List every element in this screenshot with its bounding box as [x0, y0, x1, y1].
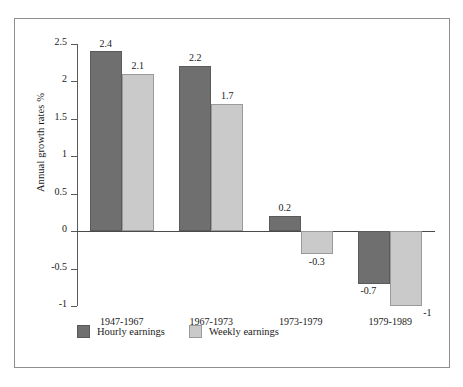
bar-hourly[interactable]	[358, 231, 390, 283]
chart-frame: Annual growth rates % 2.521.510.50-0.5-1…	[14, 18, 450, 368]
bar-value-label: 2.1	[118, 60, 158, 71]
top-text-sliver	[30, 0, 270, 4]
bar-group: -0.7-11979-1989	[346, 44, 436, 306]
figure-container: Annual growth rates % 2.521.510.50-0.5-1…	[0, 0, 463, 387]
bar-weekly[interactable]	[390, 231, 422, 306]
y-tick-label: 2	[37, 73, 67, 84]
legend-item-hourly[interactable]: Hourly earnings	[77, 325, 165, 338]
bar-group: 0.2-0.31973-1979	[256, 44, 346, 306]
y-tick-label: -1	[37, 298, 67, 309]
bar-hourly[interactable]	[269, 216, 301, 231]
y-tick: -1	[71, 306, 77, 307]
legend-item-weekly[interactable]: Weekly earnings	[189, 325, 279, 338]
y-tick-label: 0.5	[37, 186, 67, 197]
bar-value-label: -0.3	[297, 256, 337, 267]
plot-area: 2.521.510.50-0.5-1 2.42.11947-19672.21.7…	[77, 44, 435, 306]
y-tick-label: -0.5	[37, 261, 67, 272]
bar-weekly[interactable]	[122, 74, 154, 231]
bar-group: 2.21.71967-1973	[167, 44, 257, 306]
legend-label-hourly: Hourly earnings	[97, 326, 165, 337]
legend-swatch-hourly-icon	[77, 325, 90, 338]
category-label: 1979-1989	[345, 316, 435, 327]
bar-weekly[interactable]	[301, 231, 333, 253]
bar-hourly[interactable]	[90, 51, 122, 231]
bar-value-label: 2.2	[175, 52, 215, 63]
y-tick-label: 1	[37, 148, 67, 159]
bar-value-label: 1.7	[207, 90, 247, 101]
legend-label-weekly: Weekly earnings	[209, 326, 279, 337]
bottom-caption-sliver	[18, 378, 438, 385]
bar-group: 2.42.11947-1967	[77, 44, 167, 306]
bar-value-label: 2.4	[86, 38, 126, 49]
bar-value-label: -0.7	[336, 285, 376, 296]
chart-legend: Hourly earnings Weekly earnings	[77, 325, 279, 338]
bar-weekly[interactable]	[211, 104, 243, 231]
y-tick-label: 0	[37, 223, 67, 234]
y-tick-label: 2.5	[37, 36, 67, 47]
legend-swatch-weekly-icon	[189, 325, 202, 338]
y-tick-label: 1.5	[37, 111, 67, 122]
bar-value-label: 0.2	[265, 202, 305, 213]
